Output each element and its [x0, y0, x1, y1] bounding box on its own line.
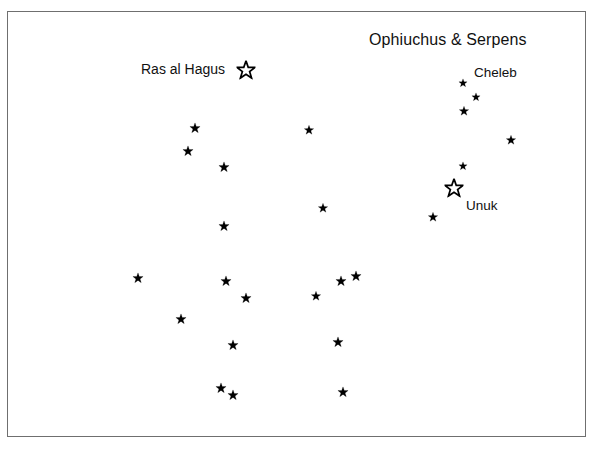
star-chart: Ophiuchus & Serpens Ras al Hagus Cheleb … [0, 0, 595, 450]
star-label-ras-al-hagus: Ras al Hagus [141, 61, 225, 77]
chart-title: Ophiuchus & Serpens [369, 31, 527, 49]
star-label-unuk: Unuk [466, 198, 498, 213]
star-label-cheleb: Cheleb [474, 65, 517, 80]
